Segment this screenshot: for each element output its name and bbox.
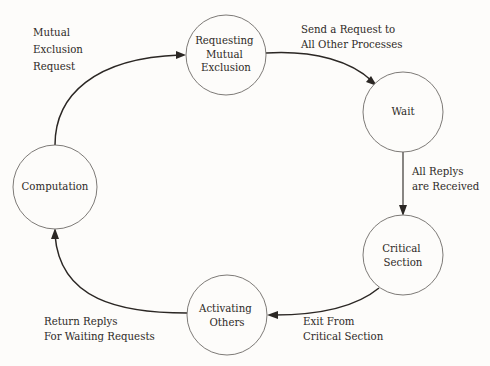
edge-label-send-request-to-all-other-processes: Send a Request to All Other Processes: [300, 24, 403, 50]
node-critical-section[interactable]: Critical Section: [363, 215, 443, 295]
edge-label-exit-from-critical-section: Exit From Critical Section: [303, 316, 384, 342]
state-diagram-canvas: Computation Requesting Mutual Exclusion …: [0, 0, 490, 366]
arrowhead-icon-critical-section-to-activating: [267, 311, 278, 319]
node-circle-critical-section[interactable]: [363, 215, 443, 295]
edge-label-return-replys-for-waiting-requests: Return Replys For Waiting Requests: [44, 316, 155, 342]
edge-path-activating-to-computation: [55, 235, 187, 313]
node-wait[interactable]: Wait: [363, 72, 443, 152]
node-label-wait: Wait: [391, 106, 415, 117]
node-requesting-mutual-exclusion[interactable]: Requesting Mutual Exclusion: [186, 15, 266, 95]
mutual-exclusion-state-diagram: Computation Requesting Mutual Exclusion …: [0, 0, 490, 366]
edge-requesting-to-wait: [266, 53, 377, 86]
arrowhead-icon-wait-to-critical-section: [399, 205, 407, 216]
node-label-computation: Computation: [22, 181, 89, 192]
arrowhead-icon-computation-to-requesting: [176, 51, 186, 59]
edge-path-requesting-to-wait: [266, 53, 372, 81]
edge-activating-to-computation: [51, 228, 187, 313]
edge-wait-to-critical-section: [399, 152, 407, 216]
edge-label-all-replys-are-received: All Replys are Received: [411, 166, 480, 192]
arrowhead-icon-activating-to-computation: [51, 228, 59, 239]
edge-label-mutual-exclusion-request: Mutual Exclusion Request: [33, 27, 86, 72]
edge-path-critical-section-to-activating: [274, 288, 379, 315]
node-circle-activating-others[interactable]: [187, 275, 267, 355]
node-computation[interactable]: Computation: [13, 145, 97, 229]
node-activating-others[interactable]: Activating Others: [187, 275, 267, 355]
edge-critical-section-to-activating: [267, 288, 379, 319]
